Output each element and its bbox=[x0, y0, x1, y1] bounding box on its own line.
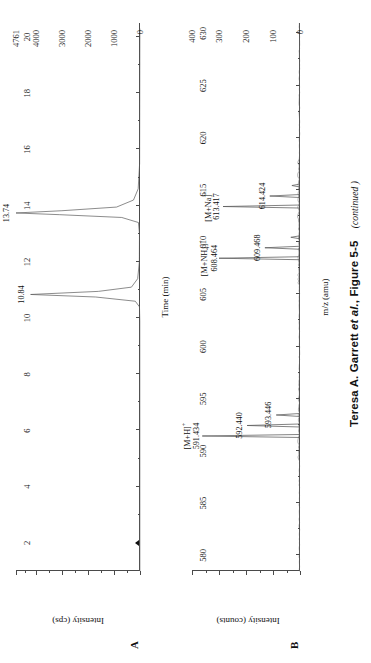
panel-b-x-tick bbox=[296, 346, 300, 347]
panel-b-peak-label: [M+H]+591.434 bbox=[181, 423, 201, 450]
panel-a-x-minor-tick bbox=[138, 458, 141, 459]
panel-a-x-tick bbox=[136, 486, 140, 487]
panel-b-peak-mz-value: 614.424 bbox=[258, 183, 267, 210]
panel-a-x-tick bbox=[136, 261, 140, 262]
panel-a-y-tick-label: 2000 bbox=[83, 30, 93, 47]
panel-a-chromatogram-trace bbox=[16, 23, 140, 571]
panel-a-y-tick bbox=[140, 571, 141, 575]
panel-a-x-tick bbox=[136, 373, 140, 374]
panel-a-x-minor-tick bbox=[138, 120, 141, 121]
panel-b-peak-label: [M+Na]+613.417 bbox=[202, 191, 222, 222]
panel-a-y-minor-tick bbox=[75, 571, 76, 574]
panel-b-x-tick-label: 595 bbox=[198, 392, 208, 405]
panel-a-x-tick bbox=[136, 36, 140, 37]
panel-a-x-tick-label: 8 bbox=[22, 372, 32, 376]
panel-b-mass-spectrum-trace bbox=[192, 23, 300, 571]
panel-a-y-minor-tick bbox=[127, 571, 128, 574]
panel-b-peak-label: 592.440 bbox=[236, 412, 245, 439]
panel-b-x-tick bbox=[296, 137, 300, 138]
panel-b-x-minor-tick bbox=[298, 111, 301, 112]
panel-a-x-tick-label: 10 bbox=[22, 314, 32, 323]
panel-b-peak-mz-value: 592.440 bbox=[235, 412, 244, 439]
panel-a-x-minor-tick bbox=[138, 514, 141, 515]
panel-b-x-tick-label: 625 bbox=[198, 79, 208, 92]
panel-b-x-minor-tick bbox=[298, 59, 301, 60]
panel-a-x-tick-label: 4 bbox=[22, 485, 32, 489]
panel-a: A Intensity (cps) 2468101214161820010002… bbox=[0, 0, 186, 663]
panel-b-letter: B bbox=[288, 642, 300, 649]
panel-b-y-minor-tick bbox=[287, 571, 288, 574]
panel-b-peak-mz-value: 591.434 bbox=[192, 423, 201, 450]
panel-a-x-minor-tick bbox=[138, 401, 141, 402]
panel-b-x-minor-tick bbox=[298, 215, 301, 216]
panel-b-y-tick bbox=[273, 571, 274, 575]
panel-b-x-axis-title: m/z (amu) bbox=[320, 278, 330, 315]
panel-b-y-tick-label: 100 bbox=[268, 30, 278, 43]
panel-a-x-tick bbox=[136, 317, 140, 318]
panel-a-x-tick-label: 18 bbox=[22, 89, 32, 98]
panel-a-x-minor-tick bbox=[138, 177, 141, 178]
panel-a-y-tick bbox=[62, 571, 63, 575]
panel-b-y-tick bbox=[192, 571, 193, 575]
panel-a-x-tick bbox=[136, 149, 140, 150]
panel-a-x-minor-tick bbox=[138, 233, 141, 234]
panel-b-peak-mz-value: 608.464 bbox=[210, 245, 219, 272]
panel-b-y-minor-tick bbox=[233, 571, 234, 574]
panel-b-x-tick bbox=[296, 189, 300, 190]
panel-b-y-minor-tick bbox=[260, 571, 261, 574]
panel-a-y-tick-label: 3000 bbox=[57, 30, 67, 47]
panel-b-peak-label: [M+NH4]+608.464 bbox=[198, 240, 220, 276]
panel-a-x-tick-label: 14 bbox=[22, 201, 32, 210]
panel-b-peak-label: 593.446 bbox=[265, 402, 274, 429]
caption-author: Teresa A. Garrett bbox=[348, 330, 360, 427]
panel-a-x-tick-label: 16 bbox=[22, 145, 32, 154]
panel-b-y-tick-label: 0 bbox=[295, 30, 305, 34]
caption-etal: et al. bbox=[348, 303, 360, 330]
panel-a-y-tick-label: 4000 bbox=[31, 30, 41, 47]
panel-a-x-tick-label: 12 bbox=[22, 258, 32, 267]
caption-continued: (continued ) bbox=[350, 181, 360, 228]
panel-b-y-tick bbox=[219, 571, 220, 575]
panel-b-y-tick-label: 400 bbox=[187, 30, 197, 43]
panel-a-y-axis-title: Intensity (cps) bbox=[52, 616, 104, 626]
panel-a-peak-label: 10.84 bbox=[18, 285, 27, 303]
panel-a-x-tick bbox=[136, 205, 140, 206]
panel-b-plot-area: 5805855905956006056106156206256300100200… bbox=[192, 23, 300, 571]
panel-b-x-tick-label: 630 bbox=[198, 27, 208, 40]
panel-a-y-tick bbox=[36, 571, 37, 575]
panel-b-y-tick-label: 200 bbox=[241, 30, 251, 43]
panel-a-peak-label: 13.74 bbox=[3, 204, 12, 222]
panel-b-x-tick bbox=[296, 85, 300, 86]
figure-canvas-rotated: A Intensity (cps) 2468101214161820010002… bbox=[0, 0, 371, 663]
panel-a-x-minor-tick bbox=[138, 64, 141, 65]
panel-b-x-minor-tick bbox=[298, 267, 301, 268]
panel-a-y-tick-label: 1000 bbox=[109, 30, 119, 47]
panel-b-y-axis-title: Intensity (counts) bbox=[216, 616, 279, 626]
panel-b-x-minor-tick bbox=[298, 320, 301, 321]
panel-b-x-tick-label: 620 bbox=[198, 131, 208, 144]
panel-a-plot-area: 246810121416182001000200030004000476110.… bbox=[16, 23, 140, 571]
figure-caption: Teresa A. Garrett et al., Figure 5-5 (co… bbox=[348, 181, 360, 427]
caption-figure-number: , Figure 5-5 bbox=[348, 241, 360, 304]
panel-a-x-tick bbox=[136, 92, 140, 93]
panel-a-letter: A bbox=[128, 641, 140, 649]
panel-b-peak-mz-value: 593.446 bbox=[264, 402, 273, 429]
panel-b-peak-mz-value: 609.468 bbox=[253, 235, 262, 262]
panel-b-x-tick bbox=[296, 502, 300, 503]
panel-a-y-tick bbox=[114, 571, 115, 575]
panel-a-x-minor-tick bbox=[138, 345, 141, 346]
panel-b-x-tick-label: 585 bbox=[198, 497, 208, 510]
panel-a-y-tick bbox=[88, 571, 89, 575]
panel-b-x-minor-tick bbox=[298, 163, 301, 164]
panel-b-peak-mz-value: 613.417 bbox=[212, 193, 221, 220]
panel-b-x-minor-tick bbox=[298, 424, 301, 425]
panel-a-x-tick-label: 6 bbox=[22, 428, 32, 432]
panel-b-y-tick-label: 300 bbox=[214, 30, 224, 43]
panel-a-x-minor-tick bbox=[138, 289, 141, 290]
panel-b-x-minor-tick bbox=[298, 528, 301, 529]
panel-b-x-minor-tick bbox=[298, 476, 301, 477]
panel-b-x-tick bbox=[296, 554, 300, 555]
panel-b-x-tick-label: 580 bbox=[198, 549, 208, 562]
panel-b-x-tick bbox=[296, 241, 300, 242]
panel-a-y-tick-label: 4761 bbox=[11, 30, 21, 47]
